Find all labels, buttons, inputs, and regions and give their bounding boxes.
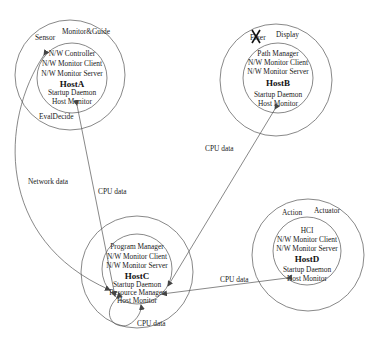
host-a-label-monitor-guide: Monitor&Guide — [62, 27, 111, 36]
edge-cpu-data-host-b — [168, 109, 275, 286]
host-c-process: Host Monitor — [117, 296, 158, 305]
host-d-process: Host Monitor — [287, 274, 328, 283]
host-b-process: N/W Monitor Client — [248, 58, 309, 67]
host-a-process: Startup Daemon — [48, 88, 97, 97]
edge-label-cpu-data-host-c: CPU data — [137, 319, 166, 328]
host-d-process: Startup Daemon — [283, 265, 332, 274]
edge-label-cpu-data-host-d: CPU data — [220, 275, 249, 284]
host-b-process: Path Manager — [257, 49, 299, 58]
host-b-node: Fixer Display Path Manager N/W Monitor C… — [220, 24, 332, 136]
system-architecture-diagram: Sensor Monitor&Guide EvalDecide N/W Cont… — [0, 0, 380, 342]
host-b-label-display: Display — [276, 30, 299, 39]
edge-cpu-data-host-a — [77, 105, 115, 296]
host-a-process: N/W Monitor Server — [41, 69, 103, 78]
host-a-label-evaldecide: EvalDecide — [39, 112, 74, 121]
host-b-title: HostB — [266, 78, 290, 88]
host-b-process: N/W Monitor Server — [247, 67, 309, 76]
host-c-process: N/W Monitor Server — [106, 261, 168, 270]
host-b-process: Host Monitor — [258, 99, 299, 108]
host-b-process: Startup Daemon — [254, 90, 303, 99]
edge-label-network-data: Network data — [28, 177, 69, 186]
host-c-process: Program Manager — [110, 242, 164, 251]
host-a-process: N/W Controller — [49, 49, 96, 58]
host-c-process: N/W Monitor Client — [107, 252, 168, 261]
edge-label-cpu-data-host-b: CPU data — [205, 144, 234, 153]
host-a-process: N/W Monitor Client — [42, 59, 103, 68]
host-a-node: Sensor Monitor&Guide EvalDecide N/W Cont… — [15, 20, 125, 130]
host-d-process: N/W Monitor Server — [276, 244, 338, 253]
host-a-label-sensor: Sensor — [35, 33, 56, 42]
host-d-title: HostD — [295, 254, 320, 264]
host-a-process: Host Monitor — [52, 97, 93, 106]
host-d-label-actuator: Actuator — [314, 206, 340, 215]
host-d-process: N/W Monitor Client — [277, 235, 338, 244]
host-d-process: HCI — [301, 226, 314, 235]
host-d-label-action: Action — [282, 208, 302, 217]
edge-label-cpu-data-host-a: CPU data — [98, 187, 127, 196]
host-d-node: Action Actuator HCI N/W Monitor Client N… — [252, 199, 364, 311]
